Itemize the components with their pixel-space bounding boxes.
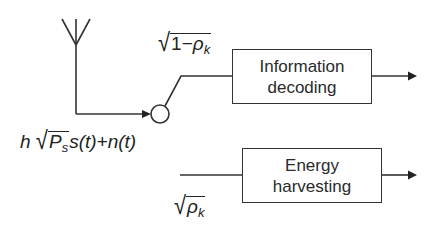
channel-h: h [20,131,31,152]
lower-split-coefficient-label: √ρk [174,193,205,223]
radical-sign: √ [174,191,186,221]
upper-branch-line [165,76,232,106]
information-decoding-block: Information decoding [232,49,372,104]
received-signal-label: h √Ps s(t)+n(t) [20,128,136,158]
subscript-k: k [198,205,205,220]
upper-split-coefficient-label: √1−ρk [158,30,211,60]
radicand: Ps [48,131,69,158]
radicand: 1−ρk [170,33,211,60]
subscript-k: k [204,42,211,57]
block-label-line2: decoding [267,77,336,98]
energy-output-arrow [381,171,417,180]
block-label-line1: Information [259,56,344,77]
input-arrow [76,110,151,118]
subscript-s: s [62,140,69,155]
energy-harvesting-block: Energy harvesting [242,148,382,203]
info-output-arrow [371,72,417,81]
power-P: P [49,131,62,152]
sqrt-expression: √1−ρk [158,30,211,60]
radical-sign: √ [36,126,48,156]
one-minus-text: 1− [171,33,193,54]
block-label-line2: harvesting [273,176,351,197]
antenna-icon [62,19,90,114]
radical-sign: √ [158,28,170,58]
sqrt-expression: √Ps [36,128,69,158]
power-splitter-node [151,105,169,123]
block-label-line1: Energy [285,155,339,176]
radicand: ρk [186,196,205,223]
rho-symbol: ρ [187,196,198,217]
signal-plus-noise: s(t)+n(t) [69,131,136,152]
sqrt-expression: √ρk [174,193,205,223]
rho-symbol: ρ [193,33,204,54]
